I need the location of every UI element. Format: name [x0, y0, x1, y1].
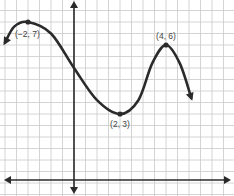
curve-end-arrow [186, 92, 194, 101]
point-label: (4, 6) [156, 31, 176, 41]
key-point [163, 42, 168, 47]
point-label: (2, 3) [110, 119, 130, 129]
key-point [25, 19, 30, 24]
function-graph: (−2, 7)(2, 3)(4, 6) [0, 0, 234, 196]
y-axis-bottom-arrow [70, 187, 78, 194]
point-label: (−2, 7) [15, 29, 40, 39]
y-axis-top-arrow [70, 1, 78, 8]
key-point [117, 111, 122, 116]
